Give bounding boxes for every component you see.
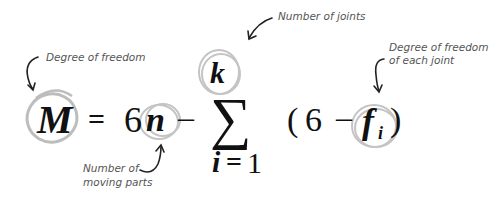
symbol-m: M (37, 100, 73, 140)
symbol-minus: – (178, 101, 194, 133)
sum-lower-var: i (212, 147, 220, 177)
arrow-joint-dof-icon (374, 59, 384, 92)
symbol-six: 6 (124, 102, 142, 138)
symbol-f: f (362, 103, 374, 139)
symbol-subscript-i: i (378, 124, 383, 142)
symbol-open-paren: ( (287, 103, 298, 137)
annotation-joint-dof-line1: Degree of freedom (389, 41, 489, 54)
formula-diagram: Degree of freedom Number of joints Degre… (0, 0, 497, 202)
arrow-dof-icon (27, 57, 38, 90)
sum-upper-k: k (210, 58, 225, 88)
annotation-number-of-joints: Number of joints (278, 10, 365, 23)
symbol-minus-inner: – (336, 101, 352, 133)
sum-lower-val: 1 (247, 148, 262, 178)
annotation-moving-line2: moving parts (83, 176, 152, 189)
annotation-degree-of-freedom: Degree of freedom (46, 51, 146, 64)
sum-lower-eq: = (226, 148, 242, 176)
annotation-moving-line1: Number of (83, 162, 139, 175)
annotation-joint-dof-line2: of each joint (389, 54, 454, 67)
symbol-equals: = (88, 104, 105, 134)
sum-sigma: ∑ (210, 90, 251, 148)
arrow-moving-icon (140, 145, 164, 172)
symbol-close-paren: ) (390, 103, 401, 137)
symbol-six-inner: 6 (305, 103, 322, 137)
symbol-n: n (146, 103, 165, 137)
arrow-joints-icon (248, 18, 272, 39)
